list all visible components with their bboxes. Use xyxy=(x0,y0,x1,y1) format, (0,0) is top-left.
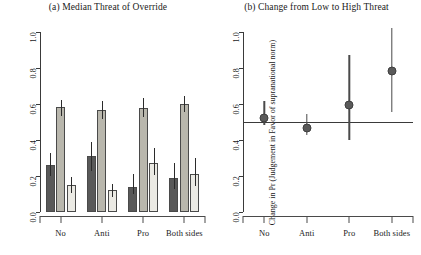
error-bar xyxy=(71,177,72,193)
panel-a-y-tick-label: 0.4 xyxy=(30,140,39,151)
panel-a-y-tick-label: 0.2 xyxy=(30,176,39,187)
panel-a-y-axis xyxy=(40,32,41,212)
error-bar xyxy=(112,184,113,197)
bracket-end xyxy=(243,216,244,223)
category-tick xyxy=(101,216,102,223)
panel-a-median-threat: (a) Median Threat of Override Probabilit… xyxy=(0,0,210,255)
panel-b-y-tick-label: 1.0 xyxy=(233,32,242,43)
panel-b-y-tick-label: 0.2 xyxy=(233,176,242,187)
panel-b-y-tick-label: 0.0 xyxy=(233,212,242,223)
error-bar xyxy=(91,142,92,171)
point-estimate-pro xyxy=(345,100,354,109)
category-label-anti: Anti xyxy=(94,228,110,238)
bracket-end xyxy=(413,216,414,223)
panel-a-title: (a) Median Threat of Override xyxy=(0,2,210,12)
panel-b-category-bracket xyxy=(243,216,413,223)
bar-both-sides-series-2-mid xyxy=(180,104,189,212)
bar-anti-series-2-mid xyxy=(97,110,106,212)
error-bar xyxy=(133,174,134,194)
category-tick xyxy=(264,216,265,223)
bar-no-series-2-mid xyxy=(56,107,65,212)
category-tick xyxy=(60,216,61,223)
panel-a-y-tick-label: 1.0 xyxy=(30,32,39,43)
category-label-both-sides: Both sides xyxy=(373,228,410,238)
panel-b-plot-area: 0.00.20.40.60.81.0 xyxy=(243,32,413,212)
error-bar xyxy=(143,98,144,118)
panel-a-y-tick-label: 0.0 xyxy=(30,212,39,223)
point-estimate-anti xyxy=(302,124,311,133)
category-label-anti: Anti xyxy=(299,228,315,238)
category-label-no: No xyxy=(55,228,66,238)
figure-container: (a) Median Threat of Override Probabilit… xyxy=(0,0,421,255)
panel-b-change-low-high: (b) Change from Low to High Threat Chang… xyxy=(210,0,421,255)
category-tick xyxy=(349,216,350,223)
error-bar xyxy=(174,163,175,188)
panel-a-plot-area: 0.00.20.40.60.81.0 xyxy=(40,32,205,212)
category-label-both-sides: Both sides xyxy=(166,228,203,238)
panel-b-y-tick-label: 0.6 xyxy=(233,104,242,115)
category-label-no: No xyxy=(259,228,270,238)
panel-b-reference-line xyxy=(243,122,413,123)
category-label-pro: Pro xyxy=(343,228,355,238)
panel-a-y-tick-label: 0.6 xyxy=(30,104,39,115)
error-bar xyxy=(50,153,51,176)
panel-a-category-bracket xyxy=(40,216,205,223)
category-label-pro: Pro xyxy=(137,228,149,238)
error-bar xyxy=(195,158,196,186)
bracket-end xyxy=(40,216,41,223)
category-tick xyxy=(184,216,185,223)
panel-b-y-tick-label: 0.8 xyxy=(233,68,242,79)
error-bar xyxy=(61,100,62,116)
error-bar xyxy=(102,101,103,119)
panel-b-y-tick-label: 0.4 xyxy=(233,140,242,151)
bracket-end xyxy=(205,216,206,223)
bar-pro-series-2-mid xyxy=(139,108,148,212)
category-tick xyxy=(143,216,144,223)
error-bar xyxy=(154,148,155,175)
panel-a-y-tick-label: 0.8 xyxy=(30,68,39,79)
panel-b-title: (b) Change from Low to High Threat xyxy=(210,2,421,12)
point-estimate-no xyxy=(260,113,269,122)
error-bar xyxy=(184,96,185,112)
category-tick xyxy=(306,216,307,223)
category-tick xyxy=(391,216,392,223)
confidence-interval-pro xyxy=(349,55,350,141)
point-estimate-both-sides xyxy=(387,66,396,75)
